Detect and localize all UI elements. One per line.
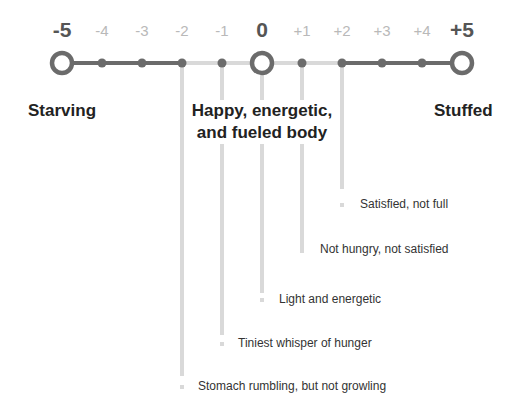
tick-dot	[298, 59, 307, 68]
tick-dot	[178, 59, 187, 68]
tick-label-minus4: -4	[95, 22, 108, 39]
description-minus1: Tiniest whisper of hunger	[238, 336, 372, 350]
tick-label-plus1: +1	[293, 22, 310, 39]
tick-dot	[98, 59, 107, 68]
bullet-icon	[260, 298, 264, 302]
tick-label-plus4: +4	[413, 22, 430, 39]
zone-label-stuffed: Stuffed	[434, 100, 493, 122]
description-minus2: Stomach rumbling, but not growling	[198, 379, 386, 393]
tick-dot	[138, 59, 147, 68]
ring-marker-0	[252, 53, 272, 73]
bullet-icon	[220, 342, 224, 346]
bullet-icon	[180, 385, 184, 389]
tick-label-minus1: -1	[215, 22, 228, 39]
description-plus2: Satisfied, not full	[360, 197, 448, 211]
description-0: Light and energetic	[279, 292, 381, 306]
zone-label-line1: Happy, energetic,	[187, 100, 337, 122]
ring-marker-plus5	[452, 53, 472, 73]
ring-marker-minus5	[52, 53, 72, 73]
bullet-icon	[300, 248, 304, 252]
tick-dot	[218, 59, 227, 68]
bullet-icon	[340, 203, 344, 207]
connector-line-plus1	[300, 63, 304, 253]
connector-line-plus2	[340, 63, 344, 189]
tick-label-plus2: +2	[333, 22, 350, 39]
tick-label-0: 0	[256, 18, 268, 42]
tick-dot	[378, 59, 387, 68]
zone-label-line2: and fueled body	[187, 122, 337, 144]
tick-label-plus3: +3	[373, 22, 390, 39]
description-plus1: Not hungry, not satisfied	[320, 242, 449, 256]
zone-label-starving: Starving	[28, 100, 96, 122]
connector-line-minus2	[180, 63, 184, 376]
tick-label-minus5: -5	[53, 18, 72, 42]
zone-label-fueled: Happy, energetic, and fueled body	[187, 100, 337, 144]
tick-label-minus3: -3	[135, 22, 148, 39]
tick-label-plus5: +5	[450, 18, 474, 42]
tick-dot	[418, 59, 427, 68]
tick-label-minus2: -2	[175, 22, 188, 39]
connector-line-0	[260, 63, 264, 293]
tick-dot	[338, 59, 347, 68]
